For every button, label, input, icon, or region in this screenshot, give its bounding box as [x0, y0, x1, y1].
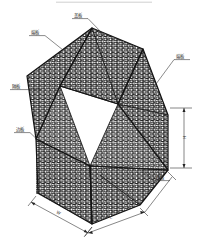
end-left-leader-line — [45, 36, 63, 50]
callout-end-right[interactable]: 端板 — [156, 53, 190, 84]
height-arrow-top — [183, 108, 186, 112]
dimension-label-width: W — [56, 209, 62, 215]
callout-label-diaphragm: 隔板 — [12, 83, 21, 90]
width-arrow-start — [31, 202, 35, 206]
gabion-box-diagram: 盖板 端板 隔板 边板 端板 底板 — [0, 0, 205, 240]
dimension-label-height: H — [182, 136, 187, 139]
callout-label-end-left: 端板 — [31, 29, 40, 36]
callout-end-left[interactable]: 端板 — [29, 29, 63, 50]
end-right-leader-line — [156, 60, 174, 84]
callout-label-side: 边板 — [16, 126, 25, 133]
callout-label-end-right: 端板 — [176, 53, 185, 60]
callout-label-base: 底板 — [156, 174, 165, 181]
dimension-height: H — [170, 108, 192, 168]
gabion-mesh-faces — [20, 10, 200, 230]
height-arrow-bottom — [183, 164, 186, 168]
width-arrow-end — [84, 230, 88, 234]
drawing-canvas: 盖板 端板 隔板 边板 端板 底板 — [0, 0, 205, 240]
callout-label-cover: 盖板 — [74, 12, 83, 19]
